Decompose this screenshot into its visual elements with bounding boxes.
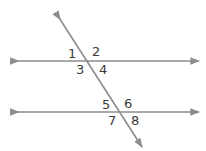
transversal-line — [56, 13, 142, 147]
angle-label-7: 7 — [108, 114, 116, 127]
angle-label-8: 8 — [131, 114, 139, 127]
angle-label-3: 3 — [76, 63, 84, 76]
angle-label-1: 1 — [68, 47, 76, 60]
angle-label-5: 5 — [102, 98, 110, 111]
angle-label-2: 2 — [92, 45, 100, 58]
angle-label-6: 6 — [124, 97, 132, 110]
geometry-diagram: 1 2 3 4 5 6 7 8 — [0, 0, 206, 151]
angle-label-4: 4 — [99, 63, 107, 76]
